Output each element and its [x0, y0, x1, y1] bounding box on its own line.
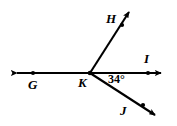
point-label-i: I: [144, 52, 149, 65]
angle-measure-label: 34°: [108, 73, 125, 85]
point-label-h: H: [106, 12, 116, 25]
point-marker-k: [88, 71, 93, 76]
point-label-k: K: [78, 76, 87, 89]
diagram-canvas: [0, 0, 177, 126]
point-label-j: J: [120, 104, 127, 117]
point-label-g: G: [28, 78, 37, 91]
point-marker-g: [31, 71, 35, 75]
point-marker-j: [141, 103, 145, 107]
geometry-figure: G H I J K 34°: [0, 0, 177, 126]
point-marker-h: [120, 23, 124, 27]
point-marker-i: [146, 71, 150, 75]
